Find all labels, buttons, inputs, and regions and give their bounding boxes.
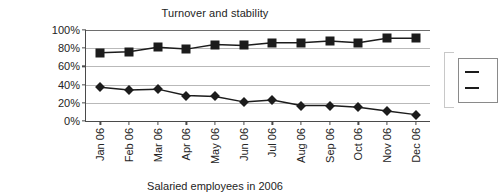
data-point-turnover-mar-06 — [153, 84, 163, 94]
x-tick-mark — [243, 121, 244, 125]
data-point-stability-aug-06 — [297, 38, 306, 47]
data-point-turnover-may-06 — [210, 91, 220, 101]
data-point-stability-jun-06 — [239, 41, 248, 50]
legend-outer-frame — [444, 52, 454, 108]
data-point-turnover-oct-06 — [353, 102, 363, 112]
data-point-stability-may-06 — [211, 40, 220, 49]
series-line-turnover — [100, 87, 415, 114]
chart-legend[interactable] — [458, 58, 498, 103]
data-point-stability-apr-06 — [182, 45, 191, 54]
data-point-turnover-apr-06 — [181, 91, 191, 101]
data-point-stability-jan-06 — [96, 48, 105, 57]
gridline-80% — [86, 48, 430, 49]
data-point-stability-sep-06 — [325, 36, 334, 45]
data-point-stability-oct-06 — [354, 38, 363, 47]
x-tick-mark — [157, 121, 158, 125]
data-point-turnover-jun-06 — [239, 97, 249, 107]
data-point-stability-mar-06 — [153, 43, 162, 52]
data-point-turnover-nov-06 — [382, 106, 392, 116]
x-tick-mark — [358, 121, 359, 125]
y-tick-label-40%: 40% — [58, 79, 86, 91]
legend-item-turnover[interactable] — [465, 87, 483, 89]
gridline-60% — [86, 66, 430, 67]
x-tick-label-aug-06: Aug 06 — [296, 128, 307, 163]
plot-area: 0%20%40%60%80%100% Jan 06Feb 06Mar 06Apr… — [85, 30, 430, 122]
x-tick-mark — [186, 121, 187, 125]
x-tick-mark — [128, 121, 129, 125]
x-tick-label-jun-06: Jun 06 — [238, 128, 249, 161]
legend-item-stability[interactable] — [465, 71, 483, 73]
data-point-turnover-dec-06 — [411, 110, 421, 120]
data-point-stability-nov-06 — [383, 34, 392, 43]
x-tick-mark — [272, 121, 273, 125]
legend-line-sample-square — [465, 71, 479, 73]
y-tick-label-100%: 100% — [52, 24, 86, 36]
x-tick-label-oct-06: Oct 06 — [353, 128, 364, 160]
gridline-100% — [86, 30, 430, 31]
chart-caption: Salaried employees in 2006 — [0, 180, 430, 192]
x-tick-mark — [329, 121, 330, 125]
data-point-turnover-feb-06 — [124, 85, 134, 95]
gridline-20% — [86, 103, 430, 104]
x-tick-mark — [386, 121, 387, 125]
data-point-stability-jul-06 — [268, 38, 277, 47]
x-tick-label-feb-06: Feb 06 — [124, 128, 135, 162]
x-tick-label-jul-06: Jul 06 — [267, 128, 278, 157]
y-tick-label-60%: 60% — [58, 60, 86, 72]
chart-title: Turnover and stability — [0, 7, 430, 19]
data-point-stability-feb-06 — [125, 47, 134, 56]
x-tick-label-mar-06: Mar 06 — [152, 128, 163, 162]
x-tick-mark — [214, 121, 215, 125]
gridline-40% — [86, 85, 430, 86]
x-tick-label-dec-06: Dec 06 — [410, 128, 421, 163]
x-tick-label-nov-06: Nov 06 — [382, 128, 393, 163]
y-tick-label-20%: 20% — [58, 97, 86, 109]
x-tick-label-jan-06: Jan 06 — [95, 128, 106, 161]
y-tick-label-0%: 0% — [64, 115, 86, 127]
series-lines — [86, 30, 430, 121]
y-tick-label-80%: 80% — [58, 42, 86, 54]
x-tick-mark — [415, 121, 416, 125]
x-tick-label-apr-06: Apr 06 — [181, 128, 192, 160]
legend-line-sample-diamond — [465, 87, 479, 89]
x-tick-mark — [100, 121, 101, 125]
x-tick-label-may-06: May 06 — [210, 128, 221, 164]
x-tick-mark — [300, 121, 301, 125]
x-tick-label-sep-06: Sep 06 — [324, 128, 335, 163]
data-point-stability-dec-06 — [411, 34, 420, 43]
series-line-stability — [100, 38, 415, 53]
